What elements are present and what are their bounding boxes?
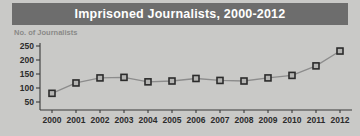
data-point-marker [193,75,199,81]
x-axis-tick-label: 2002 [91,115,110,125]
data-point-marker [97,75,103,81]
data-point-marker [313,63,319,69]
y-axis-tick-label: 250 [8,42,34,50]
data-point-marker [241,78,247,84]
x-axis-tick-label: 2000 [43,115,62,125]
y-axis-tick-label: 50 [8,98,34,106]
data-point-marker [337,48,343,54]
x-axis-tick-label: 2010 [283,115,302,125]
y-axis-tick-label: 150 [8,70,34,78]
series-line [52,51,340,93]
data-point-marker [289,72,295,78]
x-axis-tick-label: 2008 [235,115,254,125]
chart-title-banner: Imprisoned Journalists, 2000-2012 [12,3,348,25]
x-axis-tick-label: 2003 [115,115,134,125]
y-axis-tick-label: 200 [8,56,34,64]
data-point-marker [49,90,55,96]
data-point-marker [73,80,79,86]
chart-page: Imprisoned Journalists, 2000-2012 No. of… [0,0,360,136]
line-chart: No. of Journalists 501001502002502000200… [0,25,360,136]
data-point-marker [121,74,127,80]
x-axis-tick-label: 2007 [211,115,230,125]
y-axis-tick-label: 100 [8,84,34,92]
data-point-marker [145,79,151,85]
x-axis-tick-label: 2011 [307,115,325,125]
data-point-marker [217,77,223,83]
data-point-marker [169,78,175,84]
x-axis-tick-label: 2009 [259,115,278,125]
x-axis-tick-label: 2005 [163,115,182,125]
x-axis-tick-label: 2001 [67,115,86,125]
x-axis-tick-label: 2006 [187,115,206,125]
data-point-marker [265,75,271,81]
x-axis-tick-label: 2012 [331,115,350,125]
page-title: Imprisoned Journalists, 2000-2012 [75,7,286,21]
x-axis-tick-label: 2004 [139,115,158,125]
